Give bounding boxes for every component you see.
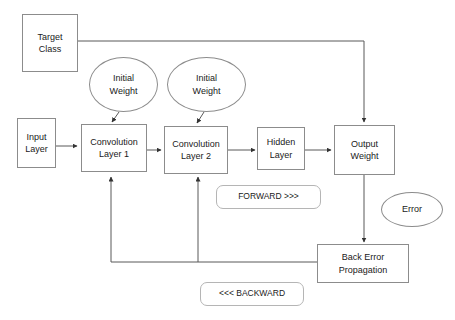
node-initial-weight-2-line-2: Weight bbox=[193, 85, 221, 97]
node-back-error-propagation-line-1: Back Error bbox=[342, 251, 385, 263]
node-error[interactable]: Error bbox=[381, 192, 443, 227]
node-hidden-layer-line-1: Hidden bbox=[267, 136, 296, 148]
node-initial-weight-1-line-2: Weight bbox=[110, 85, 138, 97]
node-convolution-layer-1-line-1: Convolution bbox=[90, 136, 138, 148]
node-initial-weight-2[interactable]: Initial Weight bbox=[167, 57, 246, 112]
node-hidden-layer-line-2: Layer bbox=[270, 149, 293, 161]
node-target-class-line-2: Class bbox=[39, 43, 62, 55]
edge-initial-weight-2-to-conv2 bbox=[197, 112, 204, 123]
label-forward-text: FORWARD >>> bbox=[238, 191, 299, 202]
node-convolution-layer-1[interactable]: Convolution Layer 1 bbox=[81, 124, 147, 172]
node-initial-weight-1[interactable]: Initial Weight bbox=[89, 57, 158, 112]
node-back-error-propagation-line-2: Propagation bbox=[339, 264, 388, 276]
node-error-line-1: Error bbox=[402, 203, 422, 215]
label-forward: FORWARD >>> bbox=[216, 185, 321, 209]
node-input-layer-line-2: Layer bbox=[25, 143, 48, 155]
node-initial-weight-2-line-1: Initial bbox=[196, 72, 217, 84]
node-back-error-propagation[interactable]: Back Error Propagation bbox=[317, 244, 409, 283]
node-target-class-line-1: Target bbox=[37, 31, 62, 43]
node-output-weight-line-1: Output bbox=[351, 138, 378, 150]
node-convolution-layer-2[interactable]: Convolution Layer 2 bbox=[164, 126, 228, 174]
node-convolution-layer-1-line-2: Layer 1 bbox=[99, 148, 129, 160]
node-initial-weight-1-line-1: Initial bbox=[113, 72, 134, 84]
node-input-layer-line-1: Input bbox=[26, 131, 46, 143]
diagram-canvas: Target Class Input Layer Initial Weight … bbox=[0, 0, 455, 320]
label-backward-text: <<< BACKWARD bbox=[219, 288, 285, 299]
node-output-weight-line-2: Weight bbox=[351, 150, 379, 162]
node-output-weight[interactable]: Output Weight bbox=[334, 125, 395, 175]
edge-initial-weight-1-to-conv1 bbox=[112, 112, 119, 122]
label-backward: <<< BACKWARD bbox=[200, 282, 304, 306]
node-hidden-layer[interactable]: Hidden Layer bbox=[257, 127, 305, 170]
node-convolution-layer-2-line-2: Layer 2 bbox=[181, 150, 211, 162]
node-target-class[interactable]: Target Class bbox=[22, 14, 78, 72]
node-convolution-layer-2-line-1: Convolution bbox=[172, 138, 220, 150]
node-input-layer[interactable]: Input Layer bbox=[17, 118, 56, 168]
